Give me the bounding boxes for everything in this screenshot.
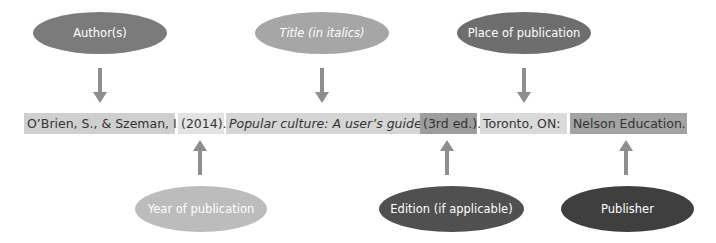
label-edition: Edition (if applicable) xyxy=(379,186,524,232)
label-year-text: Year of publication xyxy=(148,202,254,216)
citation-year: (2014). xyxy=(178,113,224,134)
label-author: Author(s) xyxy=(33,12,167,54)
label-publisher-text: Publisher xyxy=(601,202,654,216)
label-year: Year of publication xyxy=(135,186,267,232)
label-title-text: Title (in italics) xyxy=(279,26,364,40)
label-edition-text: Edition (if applicable) xyxy=(390,202,512,216)
citation-title: Popular culture: A user’s guide xyxy=(226,113,420,134)
citation-place: Toronto, ON: xyxy=(480,113,567,134)
citation-publisher: Nelson Education. xyxy=(570,113,687,134)
citation-author: O’Brien, S., & Szeman, I. xyxy=(24,113,175,134)
citation-edition: (3rd ed.). xyxy=(420,113,477,134)
label-author-text: Author(s) xyxy=(73,26,127,40)
label-place: Place of publication xyxy=(457,12,591,54)
label-title: Title (in italics) xyxy=(255,12,389,54)
label-place-text: Place of publication xyxy=(468,26,581,40)
label-publisher: Publisher xyxy=(561,186,694,232)
